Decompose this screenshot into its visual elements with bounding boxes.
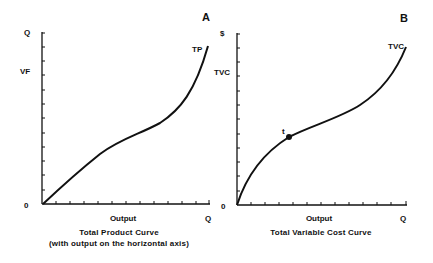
panel-a-caption: Total Product Curve (79, 228, 159, 237)
panel-b-y-top-label: $ (220, 29, 225, 38)
panel-b-origin-label: 0 (221, 202, 226, 211)
panel-b-caption: Total Variable Cost Curve (270, 228, 372, 237)
panel-b: B $ TVC 0 t TVC Output Q Total (214, 12, 408, 237)
inflection-point-t (286, 134, 292, 140)
panel-b-label: B (400, 12, 408, 24)
panel-b-x-end-label: Q (400, 214, 406, 223)
panel-a-y-mid-label: VF (20, 67, 30, 76)
diagram-canvas: A Q VF 0 TP Output Q Total Product Curve (0, 0, 433, 263)
panel-a-label: A (202, 11, 210, 23)
total-product-curve (43, 46, 208, 204)
tp-curve-label: TP (192, 45, 203, 54)
panel-a-origin-label: 0 (24, 201, 29, 210)
panel-a-caption-sub: (with output on the horizontal axis) (49, 239, 189, 248)
panel-a-x-end-label: Q (205, 214, 211, 223)
panel-b-x-axis-label: Output (306, 214, 333, 223)
panel-b-y-mid-label: TVC (214, 68, 230, 77)
point-t-label: t (282, 127, 285, 136)
total-variable-cost-curve (237, 47, 406, 205)
panel-a-y-top-label: Q (24, 28, 30, 37)
tvc-curve-label: TVC (388, 42, 404, 51)
panel-a-x-axis-label: Output (110, 214, 137, 223)
panel-a: A Q VF 0 TP Output Q Total Product Curve (20, 11, 211, 248)
